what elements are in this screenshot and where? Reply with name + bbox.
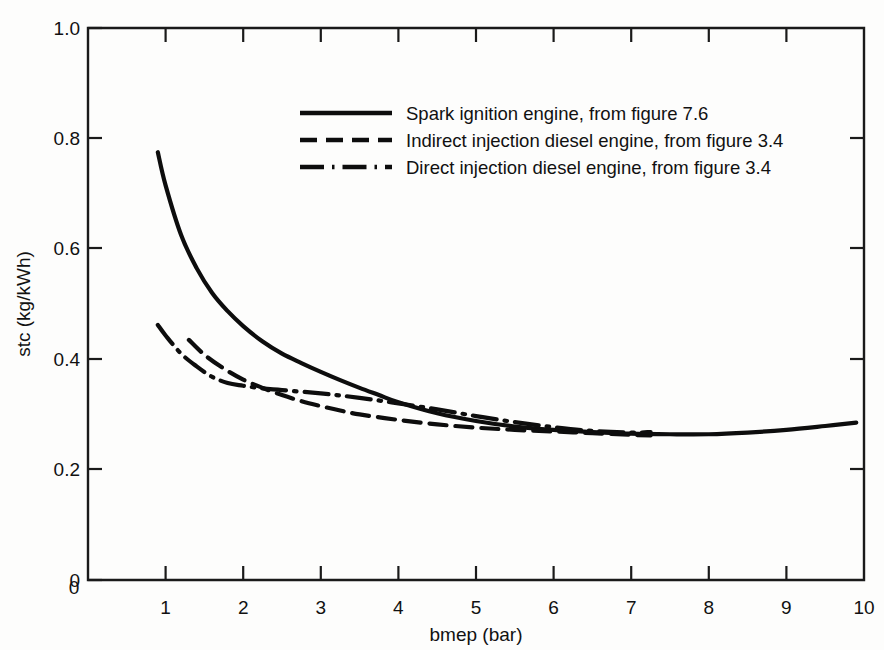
x-tick-label-5: 5 [471, 597, 482, 618]
legend: Spark ignition engine, from figure 7.6 I… [300, 103, 783, 178]
legend-label-spark-ignition: Spark ignition engine, from figure 7.6 [406, 103, 708, 124]
series-direct-injection-curve [158, 325, 651, 433]
y-tick-label-0-2: 0.2 [54, 459, 80, 480]
x-tick-label-9: 9 [781, 597, 792, 618]
y-tick-label-0-8: 0.8 [54, 128, 80, 149]
x-axis-tick-labels: 0 1 2 3 4 5 6 7 8 9 10 [69, 577, 875, 618]
y-tick-label-0-4: 0.4 [54, 349, 81, 370]
x-tick-label-10: 10 [853, 597, 874, 618]
x-tick-label-2: 2 [238, 597, 249, 618]
chart-canvas: 0 0.2 0.4 0.6 0.8 1.0 stc (kg/kWh) [0, 0, 884, 650]
y-axis-ticks [88, 28, 102, 580]
y-axis-right-ticks [850, 138, 864, 469]
y-axis-tick-labels: 0 0.2 0.4 0.6 0.8 1.0 [54, 18, 81, 591]
x-axis-ticks [166, 566, 787, 580]
y-axis-title: stc (kg/kWh) [13, 251, 34, 357]
x-tick-label-8: 8 [704, 597, 715, 618]
x-tick-label-0: 0 [69, 577, 80, 598]
figure-container: 0 0.2 0.4 0.6 0.8 1.0 stc (kg/kWh) [0, 0, 884, 650]
legend-label-indirect-injection: Indirect injection diesel engine, from f… [406, 130, 783, 151]
y-tick-label-0-6: 0.6 [54, 238, 80, 259]
x-axis-title: bmep (bar) [430, 624, 523, 645]
data-series-group [158, 152, 856, 435]
series-spark-ignition-curve [158, 152, 856, 434]
x-tick-label-7: 7 [626, 597, 637, 618]
series-indirect-injection-curve [189, 340, 651, 436]
y-tick-label-1-0: 1.0 [54, 18, 80, 39]
legend-label-direct-injection: Direct injection diesel engine, from fig… [406, 157, 771, 178]
x-tick-label-3: 3 [316, 597, 327, 618]
x-tick-label-4: 4 [393, 597, 404, 618]
x-tick-label-6: 6 [548, 597, 559, 618]
x-tick-label-1: 1 [160, 597, 171, 618]
x-axis-top-ticks [166, 28, 787, 42]
